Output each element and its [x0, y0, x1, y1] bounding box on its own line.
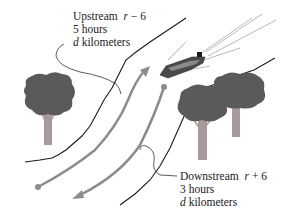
tree-right-front-icon	[178, 84, 228, 160]
downstream-rate-var: r	[245, 170, 249, 182]
boat-icon	[160, 52, 205, 78]
downstream-time: 3 hours	[180, 183, 267, 196]
downstream-label: Downstream r + 6 3 hours d kilometers	[180, 170, 267, 209]
tree-left-icon	[24, 72, 75, 145]
upstream-time: 5 hours	[73, 23, 146, 36]
downstream-title: Downstream	[180, 170, 239, 182]
upstream-label: Upstream r − 6 5 hours d kilometers	[73, 10, 146, 49]
downstream-distance-unit: kilometers	[189, 196, 238, 208]
upstream-title: Upstream	[73, 10, 118, 22]
downstream-leader-line	[140, 146, 177, 177]
upstream-distance-unit: kilometers	[82, 36, 131, 48]
downstream-arrow	[72, 84, 167, 199]
upstream-rate-op: − 6	[131, 10, 146, 22]
downstream-distance-var: d	[180, 196, 186, 208]
upstream-rate-var: r	[123, 10, 127, 22]
downstream-rate-op: + 6	[252, 170, 267, 182]
upstream-distance-var: d	[73, 36, 79, 48]
